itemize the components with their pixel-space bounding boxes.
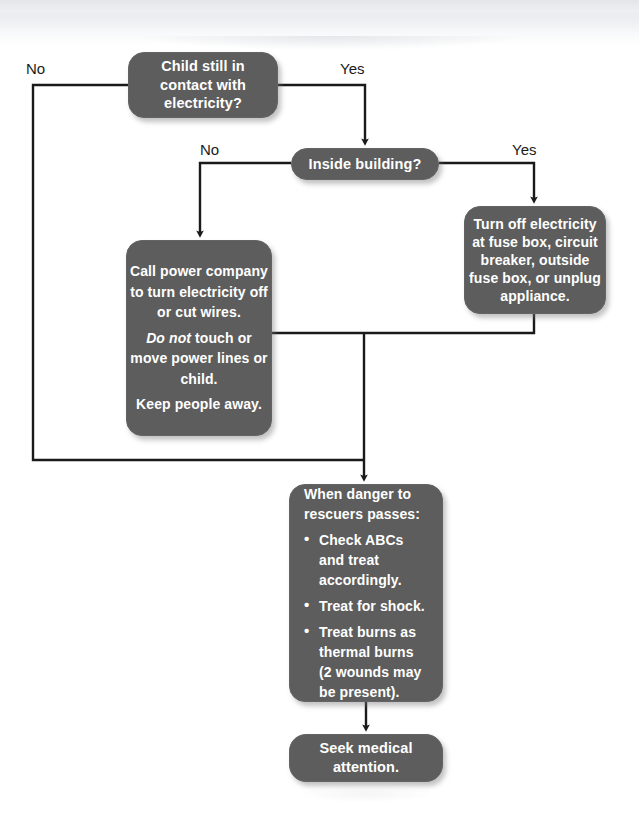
node-line: Turn off electricity [465, 215, 605, 233]
node-intro-text: When danger to rescuers passes: [304, 484, 430, 524]
node-line: Inside building? [292, 155, 438, 173]
node-bullet-item: •Treat for shock. [304, 596, 430, 616]
branch-label-contact-no: No [26, 60, 45, 78]
node-bullet-text: Check ABCs and treat accordingly. [319, 532, 404, 588]
node-bullet-item: •Treat burns as thermal burns (2 wounds … [304, 622, 430, 702]
node-line: Seek medical [290, 739, 442, 758]
node-line: at fuse box, circuit [465, 233, 605, 251]
node-paragraph-text: Call power company to turn electricity o… [130, 263, 268, 320]
node-bullet-text: Treat for shock. [319, 598, 425, 614]
node-inside-building: Inside building? [291, 148, 439, 180]
branch-label-contact-yes: Yes [340, 60, 364, 78]
connector-turnoff-to-junction [364, 314, 534, 333]
node-emphasis: Do not [146, 330, 191, 346]
branch-label-inside-no: No [200, 141, 219, 159]
connector-lines [0, 0, 639, 830]
node-child-contact-electricity: Child still in contact with electricity? [128, 52, 278, 118]
node-paragraph: Keep people away. [136, 394, 262, 415]
node-line: electricity? [129, 94, 277, 113]
bullet-icon: • [304, 621, 309, 641]
node-paragraph: Do not touch or move power lines or chil… [127, 328, 271, 390]
node-paragraph: Call power company to turn electricity o… [127, 261, 271, 323]
branch-label-inside-yes: Yes [512, 141, 536, 159]
connector-contact-yes [278, 85, 365, 142]
node-line: Child still in [129, 57, 277, 76]
node-call-power-company: Call power company to turn electricity o… [126, 240, 272, 436]
node-seek-medical-attention: Seek medical attention. [289, 734, 443, 782]
node-line: breaker, outside [465, 251, 605, 269]
node-line: appliance. [465, 287, 605, 305]
connector-inside-no [200, 163, 291, 234]
node-paragraph-text: Keep people away. [136, 396, 262, 412]
node-line: fuse box, or unplug [465, 269, 605, 287]
bullet-icon: • [304, 595, 309, 615]
node-line: attention. [290, 758, 442, 777]
node-bullet-item: •Check ABCs and treat accordingly. [304, 530, 430, 590]
flowchart-page: No Yes No Yes Child still in contact wit… [0, 0, 639, 830]
node-when-danger-passes: When danger to rescuers passes: •Check A… [289, 484, 443, 702]
node-bullet-list: •Check ABCs and treat accordingly. •Trea… [304, 530, 430, 702]
node-line: contact with [129, 76, 277, 95]
node-bullet-text: Treat burns as thermal burns (2 wounds m… [319, 624, 421, 700]
connector-inside-yes [439, 163, 534, 200]
bullet-icon: • [304, 529, 309, 549]
node-turn-off-electricity: Turn off electricity at fuse box, circui… [464, 206, 606, 314]
